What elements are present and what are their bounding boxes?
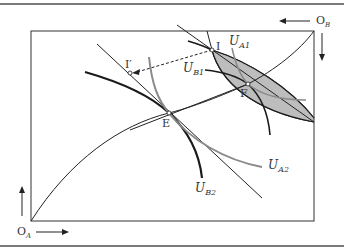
label-ua2: UA2 (268, 158, 289, 174)
arrow-right-icon (62, 229, 69, 235)
arrow-head-icon (132, 69, 140, 75)
label-ua1: UA1 (229, 34, 250, 50)
label-i-prime: I′ (125, 58, 132, 71)
origin-a-label: OA (17, 225, 31, 240)
label-ub2: UB2 (195, 181, 216, 197)
label-f: F (240, 87, 248, 100)
label-i: I (216, 40, 220, 53)
box-frame (31, 31, 314, 221)
point-i-prime (128, 71, 132, 75)
ub1-upper-arc (188, 41, 212, 50)
label-ub1: UB1 (183, 61, 204, 77)
point-e (167, 111, 171, 115)
edgeworth-box-diagram: I I′ E F UA1 UB1 UA2 UB2 OA OB (0, 0, 344, 249)
origin-b-label: OB (316, 14, 330, 29)
arrow-down-icon (319, 54, 325, 61)
arrow-up-icon (19, 186, 25, 193)
arrow-left-icon (279, 18, 286, 24)
point-f (246, 82, 250, 86)
contract-curve (31, 31, 314, 221)
point-i (210, 48, 214, 52)
label-e: E (162, 117, 170, 130)
